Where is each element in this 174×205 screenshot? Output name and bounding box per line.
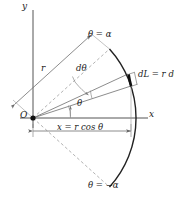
arc-sector-diagram: y x O r θ = α θ = −α θ dθ dL = r dθ x = …: [0, 0, 174, 205]
element-radius-upper: [33, 74, 128, 118]
diagram-canvas: [0, 0, 174, 205]
x-axis-label: x: [149, 110, 154, 119]
theta-label: θ: [77, 99, 82, 108]
d-theta-label: dθ: [76, 64, 87, 73]
dL-bracket-spine: [135, 73, 138, 85]
d-theta-arc: [90, 91, 92, 99]
arc-element-dL: [129, 74, 132, 86]
element-radii-group: [33, 74, 131, 118]
theta-upper-bound-label: θ = α: [88, 30, 111, 39]
y-axis-label: y: [22, 2, 27, 11]
dashed-radius-upper: [33, 49, 110, 118]
arc-element-label: dL = r dθ: [138, 70, 174, 79]
theta-lower-bound-label: θ = −α: [88, 181, 119, 190]
origin-point: [30, 115, 35, 120]
radius-label: r: [41, 64, 45, 73]
dL-tick-upper: [129, 72, 135, 74]
theta-angle-group: [69, 106, 71, 119]
x-projection-label: x = r cos θ: [57, 123, 103, 132]
origin-label: O: [20, 111, 27, 120]
